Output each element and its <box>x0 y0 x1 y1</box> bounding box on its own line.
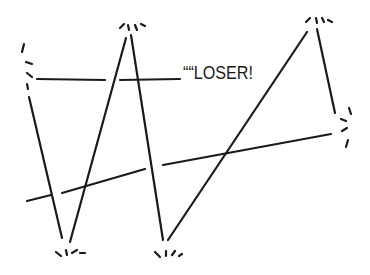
right-impact-marks-icon <box>341 108 351 147</box>
bottom-middle-impact-marks-icon <box>155 251 182 257</box>
horizontal-line-right <box>120 79 180 80</box>
bottom-left-impact-marks-icon <box>56 250 85 256</box>
top-impact-marks-icon <box>120 24 145 30</box>
top-right-impact-marks-icon <box>306 18 332 23</box>
horizontal-line-left <box>37 79 105 80</box>
loser-caption: ““LOSER! <box>183 62 253 84</box>
sketch-canvas: ““LOSER! <box>0 0 370 275</box>
bounce-lines-drawing <box>0 0 370 275</box>
left-impact-marks-icon <box>22 44 32 89</box>
